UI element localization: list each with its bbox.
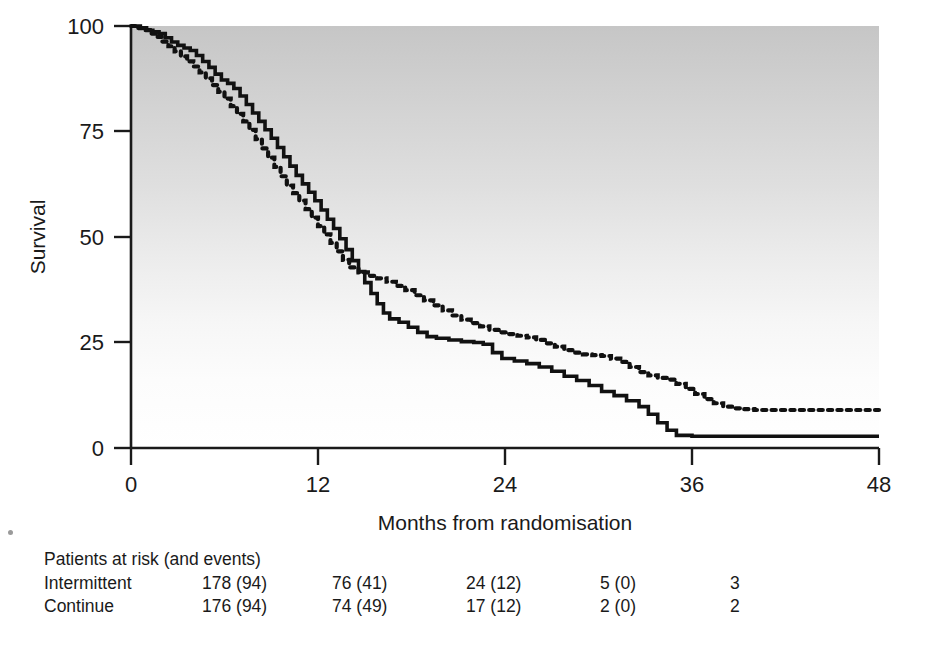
y-tick-label-25: 25 — [80, 330, 104, 355]
y-tick-label-75: 75 — [80, 119, 104, 144]
risk-cell: 3 — [730, 572, 740, 595]
table-row: Intermittent 178 (94) 76 (41) 24 (12) 5 … — [44, 572, 924, 595]
plot-area: 100 75 50 25 0 0 12 24 36 48 — [0, 0, 937, 540]
y-axis-tick-labels: 100 75 50 25 0 — [67, 14, 104, 461]
y-tick-label-100: 100 — [67, 14, 104, 39]
risk-cell: 74 (49) — [332, 595, 387, 618]
patients-at-risk-table: Patients at risk (and events) Intermitte… — [44, 548, 924, 618]
x-tick-label-24: 24 — [493, 472, 517, 497]
y-axis-title: Survival — [26, 200, 49, 275]
x-axis-ticks — [131, 448, 879, 465]
x-axis-tick-labels: 0 12 24 36 48 — [125, 472, 891, 497]
risk-cell: 24 (12) — [466, 572, 521, 595]
page-speck — [8, 530, 13, 535]
table-row: Continue 176 (94) 74 (49) 17 (12) 2 (0) … — [44, 595, 924, 618]
x-tick-label-12: 12 — [306, 472, 330, 497]
risk-table-heading: Patients at risk (and events) — [44, 548, 924, 571]
risk-cell: 176 (94) — [202, 595, 267, 618]
x-tick-label-48: 48 — [867, 472, 891, 497]
y-axis-ticks — [114, 26, 131, 448]
x-tick-label-36: 36 — [680, 472, 704, 497]
risk-cell: 17 (12) — [466, 595, 521, 618]
survival-figure: 100 75 50 25 0 0 12 24 36 48 — [0, 0, 937, 651]
risk-row-label-continue: Continue — [44, 595, 114, 618]
risk-cell: 76 (41) — [332, 572, 387, 595]
x-axis-title: Months from randomisation — [378, 511, 632, 534]
plot-background — [131, 26, 879, 448]
y-tick-label-0: 0 — [92, 436, 104, 461]
y-tick-label-50: 50 — [80, 225, 104, 250]
risk-row-label-intermittent: Intermittent — [44, 572, 132, 595]
risk-cell: 5 (0) — [600, 572, 636, 595]
risk-cell: 2 — [730, 595, 740, 618]
risk-cell: 178 (94) — [202, 572, 267, 595]
risk-cell: 2 (0) — [600, 595, 636, 618]
kaplan-meier-chart: 100 75 50 25 0 0 12 24 36 48 — [0, 0, 937, 540]
x-tick-label-0: 0 — [125, 472, 137, 497]
